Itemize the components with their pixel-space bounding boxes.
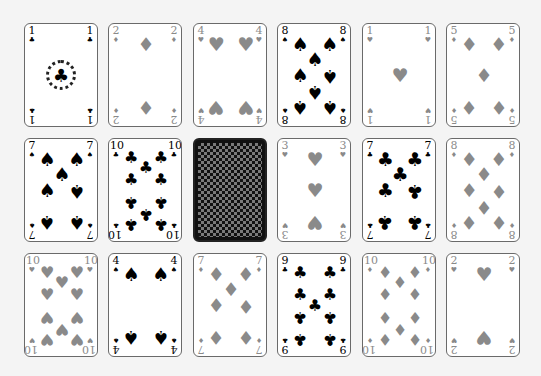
rank-label: 2 [110,25,122,36]
clubs-icon: ♣ [320,329,340,349]
spades-icon: ♠ [110,266,122,274]
card-1-of-hearts[interactable]: 1♥1♥1♥1♥♥ [362,23,436,127]
card-index-tr: 1♥ [422,25,434,44]
clubs-ace-emblem-icon: ♣ [46,60,76,90]
card-2-of-diamonds[interactable]: 2♦2♦2♦2♦♦♦ [108,23,182,127]
card-index-tl: 5♦ [448,25,460,44]
diamonds-icon: ♦ [375,285,395,305]
spades-icon: ♠ [279,36,291,44]
diamonds-icon: ♦ [375,329,395,349]
diamonds-icon: ♦ [459,97,479,117]
card-index-tl: 2♦ [110,25,122,44]
hearts-icon: ♥ [206,97,226,117]
card-index-bl: 1♥ [364,106,376,125]
clubs-icon: ♣ [320,263,340,283]
diamonds-icon: ♦ [489,212,509,232]
rank-label: 2 [110,114,122,125]
card-8-of-spades[interactable]: 8♠8♠8♠8♠♠♠♠♠♠♠♠♠ [277,23,351,127]
card-index-tr: 2♥ [506,255,518,274]
card-index-bl: 2♦ [110,106,122,125]
spades-icon: ♠ [151,327,171,347]
card-index-bl: 3♥ [279,221,291,240]
card-index-tl: 10♥ [26,255,38,274]
hearts-icon: ♥ [236,97,256,117]
card-index-tl: 9♣ [279,255,291,274]
card-9-of-clubs[interactable]: 9♣9♣9♣9♣♣♣♣♣♣♣♣♣♣ [277,253,351,357]
diamonds-icon: ♦ [206,296,226,316]
diamonds-icon: ♦ [448,151,460,159]
card-4-of-hearts[interactable]: 4♥4♥4♥4♥♥♥♥♥ [193,23,267,127]
card-index-tl: 7♣ [364,140,376,159]
rank-label: 3 [279,140,291,151]
card-2-of-hearts[interactable]: 2♥2♥2♥2♥♥♥ [446,253,520,357]
clubs-icon: ♣ [375,212,395,232]
spades-icon: ♠ [121,265,141,285]
rank-label: 2 [448,344,460,355]
hearts-icon: ♥ [390,66,410,86]
rank-label: 1 [364,25,376,36]
rank-label: 7 [26,140,38,151]
rank-label: 10 [110,140,122,151]
clubs-icon: ♣ [405,181,425,201]
card-4-of-spades[interactable]: 4♠4♠4♠4♠♠♠♠♠ [108,253,182,357]
diamonds-icon: ♦ [489,97,509,117]
hearts-icon: ♥ [37,285,57,305]
card-7-of-spades[interactable]: 7♠7♠7♠7♠♠♠♠♠♠♠♠ [24,138,98,242]
hearts-icon: ♥ [67,285,87,305]
rank-label: 1 [26,114,38,125]
card-face-down[interactable] [193,138,267,242]
clubs-icon: ♣ [151,170,171,190]
hearts-icon: ♥ [206,35,226,55]
card-index-tl: 1♣ [26,25,38,44]
hearts-icon: ♥ [305,212,325,232]
diamonds-icon: ♦ [459,212,479,232]
hearts-icon: ♥ [337,151,349,159]
card-10-of-diamonds[interactable]: 10♦10♦10♦10♦♦♦♦♦♦♦♦♦♦♦ [362,253,436,357]
card-7-of-clubs[interactable]: 7♣7♣7♣7♣♣♣♣♣♣♣♣ [362,138,436,242]
rank-label: 2 [168,25,180,36]
card-index-tl: 8♠ [279,25,291,44]
diamonds-icon: ♦ [405,285,425,305]
diamonds-icon: ♦ [489,35,509,55]
clubs-icon: ♣ [290,307,310,327]
rank-label: 4 [110,255,122,266]
card-index-br: 1♥ [422,106,434,125]
card-index-br: 2♥ [506,336,518,355]
rank-label: 2 [168,114,180,125]
spades-icon: ♠ [320,97,340,117]
card-index-tr: 3♥ [337,140,349,159]
rank-label: 2 [448,255,460,266]
card-index-tl: 1♥ [364,25,376,44]
card-8-of-diamonds[interactable]: 8♦8♦8♦8♦♦♦♦♦♦♦♦♦ [446,138,520,242]
diamonds-icon: ♦ [110,36,122,44]
card-7-of-diamonds[interactable]: 7♦7♦7♦7♦♦♦♦♦♦♦♦ [193,253,267,357]
rank-label: 2 [506,255,518,266]
rank-label: 7 [364,140,376,151]
diamonds-icon: ♦ [206,327,226,347]
clubs-icon: ♣ [320,307,340,327]
spades-icon: ♠ [37,212,57,232]
card-index-tr: 2♦ [168,25,180,44]
clubs-icon: ♣ [151,214,171,234]
card-10-of-clubs[interactable]: 10♣10♣10♣10♣♣♣♣♣♣♣♣♣♣♣ [108,138,182,242]
diamonds-icon: ♦ [448,36,460,44]
card-index-br: 1♣ [84,106,96,125]
card-index-br: 3♥ [337,221,349,240]
rank-label: 1 [84,25,96,36]
hearts-icon: ♥ [448,266,460,274]
rank-label: 3 [337,229,349,240]
clubs-icon: ♣ [290,263,310,283]
hearts-icon: ♥ [37,329,57,349]
card-10-of-hearts[interactable]: 10♥10♥10♥10♥♥♥♥♥♥♥♥♥♥♥ [24,253,98,357]
rank-label: 9 [279,255,291,266]
card-index-tl: 7♠ [26,140,38,159]
card-1-of-clubs[interactable]: 1♣1♣1♣1♣♣ [24,23,98,127]
hearts-icon: ♥ [195,36,207,44]
diamonds-icon: ♦ [236,327,256,347]
hearts-icon: ♥ [422,36,434,44]
card-3-of-hearts[interactable]: 3♥3♥3♥3♥♥♥♥ [277,138,351,242]
diamonds-icon: ♦ [136,97,156,117]
card-index-bl: 1♣ [26,106,38,125]
card-5-of-diamonds[interactable]: 5♦5♦5♦5♦♦♦♦♦♦ [446,23,520,127]
hearts-icon: ♥ [26,266,38,274]
